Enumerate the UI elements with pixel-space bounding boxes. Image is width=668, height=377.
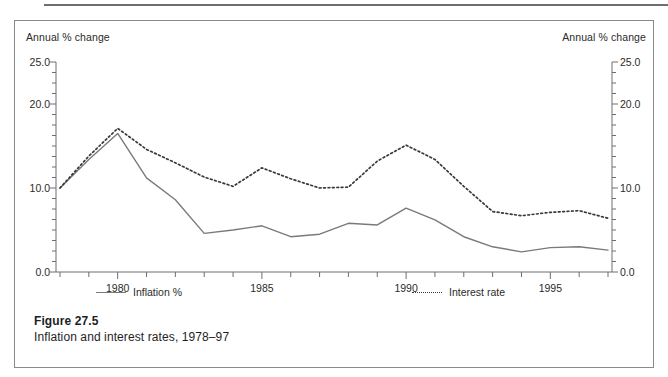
y-tick-label-left: 0.0 [35, 266, 50, 278]
legend-swatch-solid-icon [96, 292, 126, 293]
legend-item-inflation: Inflation % [96, 286, 182, 298]
chart-tick-labels: 0.00.010.010.020.020.025.025.01980198519… [30, 56, 641, 294]
legend-label-inflation: Inflation % [133, 286, 182, 298]
figure-caption-subtitle: Inflation and interest rates, 1978–97 [34, 330, 554, 344]
y-tick-label-right: 0.0 [620, 266, 635, 278]
series-line-interest-rate [60, 128, 608, 218]
x-tick-label: 1985 [250, 282, 274, 294]
chart-series [60, 128, 608, 251]
series-line-inflation [60, 133, 608, 251]
y-tick-label-left: 10.0 [30, 182, 51, 194]
chart-axes [50, 62, 618, 279]
y-tick-label-left: 20.0 [30, 98, 51, 110]
y-tick-label-right: 25.0 [620, 56, 641, 68]
legend-label-interest: Interest rate [449, 286, 505, 298]
y-tick-label-left: 25.0 [30, 56, 51, 68]
figure-caption: Figure 27.5 Inflation and interest rates… [34, 314, 554, 344]
x-tick-label: 1995 [539, 282, 563, 294]
legend-swatch-dotted-icon [412, 292, 442, 293]
y-tick-label-right: 10.0 [620, 182, 641, 194]
figure-caption-title: Figure 27.5 [34, 314, 554, 328]
legend-item-interest: Interest rate [412, 286, 505, 298]
y-tick-label-right: 20.0 [620, 98, 641, 110]
